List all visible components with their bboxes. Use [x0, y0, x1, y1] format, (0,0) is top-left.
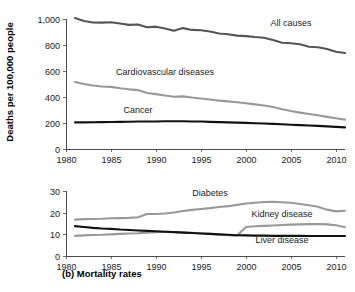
- y-tick-label: 20: [50, 209, 60, 219]
- y-tick-label: 30: [50, 187, 60, 197]
- series-label-cancer: Cancer: [123, 105, 152, 115]
- x-tick-label: 1995: [191, 155, 211, 165]
- x-tick-label: 2005: [281, 262, 301, 272]
- chart-canvas: Deaths per 100,000 people 02004006008001…: [0, 0, 355, 292]
- x-tick-label: 2005: [281, 155, 301, 165]
- y-tick-label: 0: [55, 252, 60, 262]
- y-tick-label: 600: [45, 67, 60, 77]
- x-tick-label: 1985: [101, 155, 121, 165]
- series-label-kidney-disease: Kidney disease: [251, 209, 312, 219]
- y-tick-label: 1,000: [37, 15, 60, 25]
- y-tick-label: 400: [45, 93, 60, 103]
- y-tick-label: 800: [45, 41, 60, 51]
- y-tick-label: 10: [50, 230, 60, 240]
- series-label-diabetes: Diabetes: [192, 188, 228, 198]
- series-label-liver-disease: Liver disease: [255, 235, 308, 245]
- x-tick-label: 2010: [326, 155, 346, 165]
- x-tick-label: 2000: [236, 155, 256, 165]
- series-label-cardiovascular-diseases: Cardiovascular diseases: [116, 67, 215, 77]
- series-label-all-causes: All causes: [270, 18, 312, 28]
- y-tick-label: 0: [55, 145, 60, 155]
- mortality-rates-figure: Deaths per 100,000 people 02004006008001…: [0, 0, 355, 292]
- x-tick-label: 2010: [326, 262, 346, 272]
- x-tick-label: 1990: [146, 262, 166, 272]
- y-tick-label: 200: [45, 119, 60, 129]
- y-axis-title-top: Deaths per 100,000 people: [4, 22, 15, 141]
- figure-caption: (b) Mortality rates: [62, 268, 142, 279]
- x-tick-label: 2000: [236, 262, 256, 272]
- x-tick-label: 1990: [146, 155, 166, 165]
- x-tick-label: 1995: [191, 262, 211, 272]
- x-tick-label: 1980: [56, 155, 76, 165]
